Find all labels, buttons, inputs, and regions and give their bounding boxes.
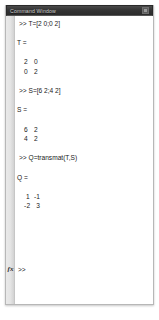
- console-blank-line: [16, 77, 153, 87]
- console-matrix-row: 1 -1: [16, 192, 153, 202]
- console-variable-label: Q =: [16, 173, 153, 183]
- console-command-line: >> Q=transmat(T,S): [16, 153, 153, 163]
- console-variable-label: T =: [16, 38, 153, 48]
- console-output-area[interactable]: >> T=[2 0;0 2]T =2 00 2>> S=[6 2;4 2]S =…: [6, 16, 153, 304]
- console-blank-line: [16, 96, 153, 106]
- window-minimize-icon[interactable]: [142, 7, 149, 14]
- console-blank-line: [16, 163, 153, 173]
- console-variable-label: S =: [16, 105, 153, 115]
- fx-function-icon[interactable]: fx: [6, 266, 15, 273]
- console-blank-line: [16, 29, 153, 39]
- console-command-line: >> S=[6 2;4 2]: [16, 86, 153, 96]
- console-matrix-row: -2 3: [16, 201, 153, 211]
- console-matrix-row: 6 2: [16, 125, 153, 135]
- console-blank-line: [16, 144, 153, 154]
- console-blank-line: [16, 48, 153, 58]
- console-matrix-row: 4 2: [16, 134, 153, 144]
- console-blank-line: [16, 115, 153, 125]
- console-blank-line: [16, 182, 153, 192]
- command-window: Command Window >> T=[2 0;0 2]T =2 00 2>>…: [5, 5, 154, 305]
- console-command-line: >> T=[2 0;0 2]: [16, 19, 153, 29]
- window-titlebar[interactable]: Command Window: [6, 5, 153, 16]
- command-input[interactable]: >>: [18, 266, 26, 273]
- command-prompt-row[interactable]: fx >>: [6, 263, 153, 275]
- console-lines: >> T=[2 0;0 2]T =2 00 2>> S=[6 2;4 2]S =…: [16, 16, 153, 304]
- console-matrix-row: 2 0: [16, 57, 153, 67]
- window-title: Command Window: [7, 8, 142, 14]
- console-matrix-row: 0 2: [16, 67, 153, 77]
- editor-gutter: [6, 16, 15, 304]
